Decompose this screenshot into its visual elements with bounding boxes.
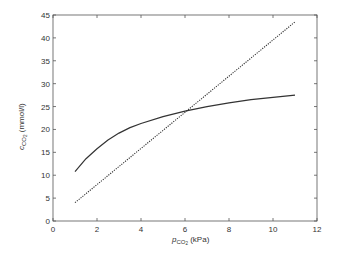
y-tick-label: 0 [46,217,51,226]
x-axis-label: pCO2 (kPa) [171,235,210,246]
plot-area [53,15,317,221]
y-tick-label: 35 [41,57,50,66]
chart: 024681012 051015202530354045 pCO2 (kPa) … [0,0,338,254]
x-tick-label: 12 [313,225,322,234]
y-tick-label: 45 [41,11,50,20]
y-tick-label: 25 [41,103,50,112]
y-tick-label: 15 [41,148,50,157]
x-tick-label: 10 [269,225,278,234]
x-tick-label: 8 [227,225,232,234]
x-tick-label: 6 [183,225,188,234]
y-tick-label: 20 [41,125,50,134]
x-tick-label: 2 [95,225,100,234]
y-axis-label: cCO2 (mmol/l) [17,103,28,150]
x-tick-label: 4 [139,225,144,234]
y-tick-label: 40 [41,34,50,43]
y-tick-label: 10 [41,171,50,180]
y-tick-label: 5 [46,194,51,203]
y-tick-label: 30 [41,80,50,89]
x-tick-label: 0 [51,225,56,234]
